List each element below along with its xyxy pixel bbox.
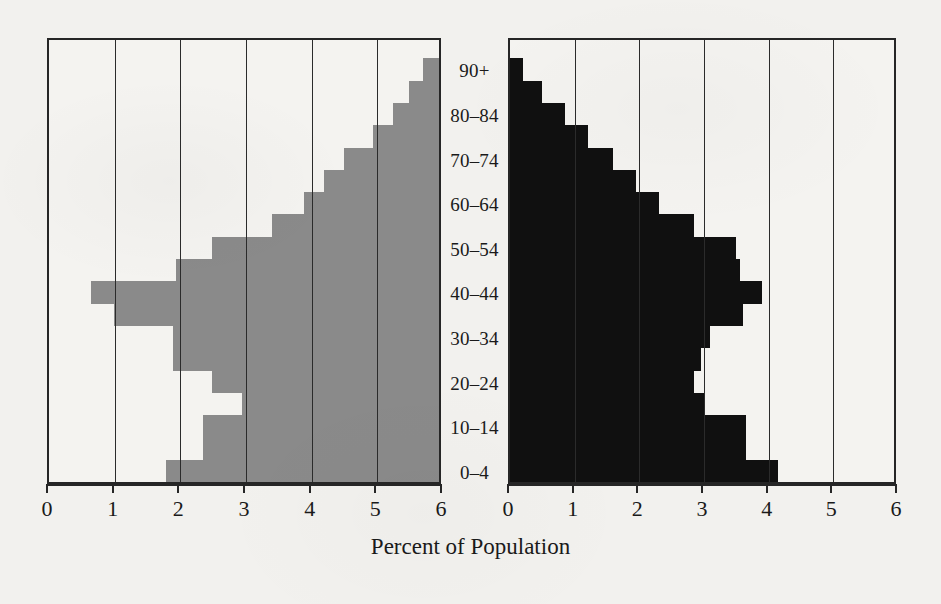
- bar-right-35_39: [510, 304, 743, 326]
- bar-right-45_49: [510, 259, 740, 281]
- bar-left-30_34: [173, 326, 439, 348]
- x-tick-label-3: 3: [227, 496, 261, 522]
- bar-left-5_9: [203, 437, 439, 459]
- bar-right-10_14: [510, 415, 746, 437]
- age-label-20_24: 20–24: [441, 373, 508, 395]
- bar-left-25_29: [173, 348, 439, 370]
- bar-left-55_59: [272, 214, 439, 236]
- bar-left-70_74: [344, 148, 439, 170]
- bar-right-20_24: [510, 371, 694, 393]
- bar-left-35_39: [114, 304, 439, 326]
- gridline-1: [115, 40, 116, 482]
- bar-right-90+: [510, 58, 523, 80]
- bar-left-60_64: [304, 192, 439, 214]
- bar-left-80_84: [393, 103, 439, 125]
- x-tick-label-2: 2: [161, 496, 195, 522]
- population-pyramid-figure: 0–410–1420–2430–3440–4450–5460–6470–7480…: [0, 0, 941, 604]
- bar-right-50_54: [510, 237, 736, 259]
- age-group-axis: 0–410–1420–2430–3440–4450–5460–6470–7480…: [441, 38, 508, 484]
- age-label-50_54: 50–54: [441, 239, 508, 261]
- age-label-70_74: 70–74: [441, 150, 508, 172]
- right-panel-plot-area: [508, 38, 896, 484]
- bar-left-15_19: [242, 393, 439, 415]
- right-panel-bars: [510, 40, 894, 482]
- gridline-5: [833, 40, 834, 482]
- age-label-90+: 90+: [441, 60, 508, 82]
- bar-left-75_79: [373, 125, 439, 147]
- x-tick-label-3: 3: [685, 496, 719, 522]
- bar-left-10_14: [203, 415, 439, 437]
- bar-right-80_84: [510, 103, 565, 125]
- gridline-4: [312, 40, 313, 482]
- x-tick-label-4: 4: [293, 496, 327, 522]
- age-label-40_44: 40–44: [441, 283, 508, 305]
- gridline-1: [575, 40, 576, 482]
- age-label-80_84: 80–84: [441, 105, 508, 127]
- x-tick-label-5: 5: [814, 496, 848, 522]
- gridline-2: [639, 40, 640, 482]
- bar-left-65_69: [324, 170, 439, 192]
- bar-right-60_64: [510, 192, 659, 214]
- gridline-4: [769, 40, 770, 482]
- age-label-10_14: 10–14: [441, 417, 508, 439]
- axis-baseline-left: [47, 484, 441, 486]
- bar-left-45_49: [176, 259, 439, 281]
- bar-right-30_34: [510, 326, 710, 348]
- gridline-3: [246, 40, 247, 482]
- left-panel-plot-area: [47, 38, 441, 484]
- gridline-3: [704, 40, 705, 482]
- age-label-30_34: 30–34: [441, 328, 508, 350]
- bar-left-90+: [423, 58, 439, 80]
- axis-baseline-right: [508, 484, 896, 486]
- bar-right-65_69: [510, 170, 636, 192]
- x-tick-label-1: 1: [96, 496, 130, 522]
- bar-right-55_59: [510, 214, 694, 236]
- bar-right-25_29: [510, 348, 701, 370]
- x-tick-label-6: 6: [879, 496, 913, 522]
- x-axis-title: Percent of Population: [0, 534, 941, 560]
- bar-left-40_44: [91, 281, 439, 303]
- x-tick-label-2: 2: [620, 496, 654, 522]
- x-tick-label-4: 4: [750, 496, 784, 522]
- bar-left-0_4: [166, 460, 439, 482]
- bar-left-85_89: [409, 81, 439, 103]
- age-label-60_64: 60–64: [441, 194, 508, 216]
- x-tick-label-0: 0: [491, 496, 525, 522]
- x-tick-label-0: 0: [30, 496, 64, 522]
- age-label-0_4: 0–4: [441, 462, 508, 484]
- left-panel-bars: [49, 40, 439, 482]
- gridline-5: [377, 40, 378, 482]
- bar-right-70_74: [510, 148, 613, 170]
- bar-right-0_4: [510, 460, 778, 482]
- bar-right-5_9: [510, 437, 746, 459]
- x-tick-label-6: 6: [424, 496, 458, 522]
- x-tick-label-1: 1: [556, 496, 590, 522]
- x-tick-label-5: 5: [358, 496, 392, 522]
- bar-right-75_79: [510, 125, 588, 147]
- gridline-2: [180, 40, 181, 482]
- bar-right-40_44: [510, 281, 762, 303]
- bar-right-85_89: [510, 81, 542, 103]
- bar-right-15_19: [510, 393, 704, 415]
